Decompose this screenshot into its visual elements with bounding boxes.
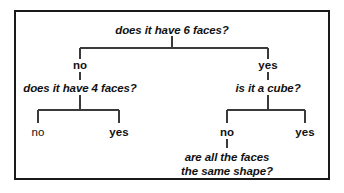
- right-leaf-yes-label: yes: [295, 126, 315, 139]
- root-question: does it have 6 faces?: [115, 24, 229, 37]
- left-question: does it have 4 faces?: [23, 82, 137, 95]
- final-question-line-2: the same shape?: [181, 164, 273, 178]
- root-branch-no-label: no: [73, 59, 87, 72]
- decision-tree-figure: does it have 6 faces? no yes does it hav…: [0, 0, 344, 193]
- left-leaf-no-label: no: [32, 126, 45, 139]
- final-question: are all the faces the same shape?: [181, 150, 273, 179]
- right-leaf-no-label: no: [220, 126, 234, 139]
- left-leaf-yes-label: yes: [109, 126, 129, 139]
- final-question-line-1: are all the faces: [181, 150, 273, 164]
- root-branch-yes-label: yes: [258, 59, 278, 72]
- right-question: is it a cube?: [235, 82, 300, 95]
